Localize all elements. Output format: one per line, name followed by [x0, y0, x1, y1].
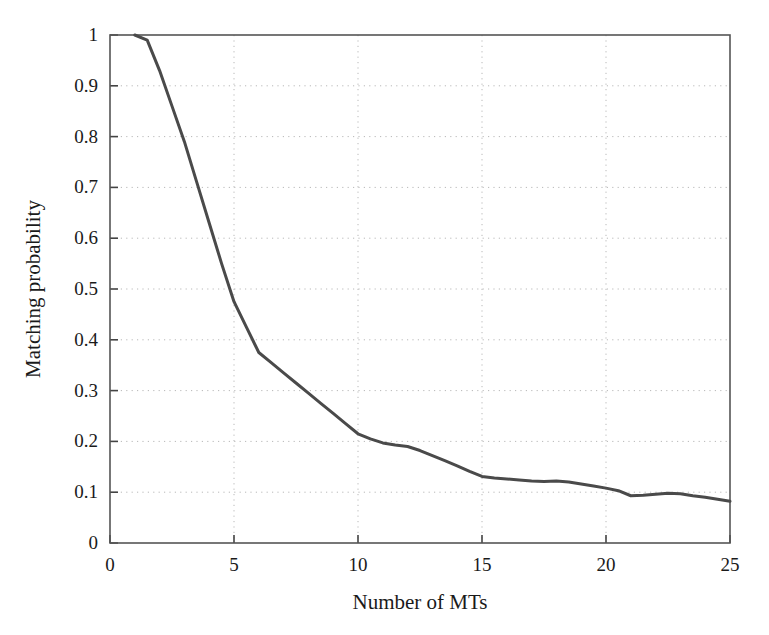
y-tick-label: 1 [89, 24, 99, 45]
x-tick-label: 10 [349, 554, 368, 575]
x-tick-label: 0 [105, 554, 115, 575]
y-tick-label: 0.5 [74, 278, 98, 299]
y-tick-label: 0.4 [74, 329, 98, 350]
x-tick-labels: 0510152025 [105, 554, 739, 575]
x-tick-label: 25 [721, 554, 740, 575]
y-tick-label: 0.7 [74, 176, 98, 197]
y-tick-label: 0.6 [74, 227, 98, 248]
y-tick-labels: 00.10.20.30.40.50.60.70.80.91 [74, 24, 98, 553]
y-tick-label: 0.2 [74, 430, 98, 451]
matching-probability-line-chart: 0510152025 00.10.20.30.40.50.60.70.80.91… [0, 0, 769, 635]
y-tick-label: 0.9 [74, 75, 98, 96]
y-tick-label: 0.8 [74, 126, 98, 147]
chart-figure: 0510152025 00.10.20.30.40.50.60.70.80.91… [0, 0, 769, 635]
y-axis-title: Matching probability [21, 200, 45, 378]
x-tick-label: 20 [597, 554, 616, 575]
x-axis-title: Number of MTs [352, 590, 487, 614]
y-tick-label: 0.1 [74, 481, 98, 502]
x-tick-label: 15 [473, 554, 492, 575]
x-tick-label: 5 [229, 554, 239, 575]
y-tick-label: 0.3 [74, 380, 98, 401]
y-tick-label: 0 [89, 532, 99, 553]
